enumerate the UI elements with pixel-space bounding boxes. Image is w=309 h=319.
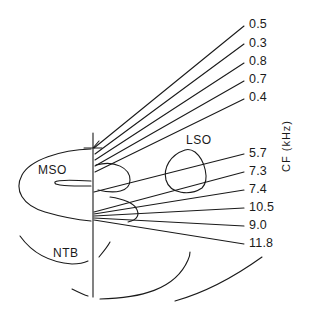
fiber-line-0.3 bbox=[95, 44, 244, 154]
cf-label-10.5: 10.5 bbox=[249, 201, 274, 213]
cf-label-0.5: 0.5 bbox=[249, 18, 267, 30]
structure-curve-4 bbox=[175, 257, 262, 301]
structure-curve-1 bbox=[99, 242, 110, 257]
cf-label-9.0: 9.0 bbox=[249, 219, 267, 231]
cf-label-7.3: 7.3 bbox=[249, 165, 267, 177]
fiber-line-10.5 bbox=[94, 208, 244, 216]
cf-label-0.7: 0.7 bbox=[249, 73, 267, 85]
fiber-line-0.5 bbox=[94, 26, 244, 148]
fiber-line-7.4 bbox=[94, 190, 244, 214]
lso-outline bbox=[165, 150, 206, 193]
fiber-line-0.7 bbox=[95, 81, 244, 166]
cf-label-5.7: 5.7 bbox=[249, 147, 267, 159]
mso-outline bbox=[19, 149, 91, 221]
fiber-line-0.8 bbox=[95, 63, 244, 160]
fiber-line-9.0 bbox=[94, 218, 244, 226]
lso-label: LSO bbox=[186, 133, 212, 147]
cf-label-11.8: 11.8 bbox=[249, 237, 273, 249]
structure-curve-2 bbox=[72, 289, 88, 296]
ntb-label: NTB bbox=[53, 246, 79, 260]
cf-axis-label: CF (kHz) bbox=[280, 120, 292, 172]
cf-label-0.3: 0.3 bbox=[249, 37, 267, 49]
mso-label: MSO bbox=[38, 163, 67, 177]
structure-curve-3 bbox=[100, 252, 190, 299]
cf-label-0.8: 0.8 bbox=[249, 55, 267, 67]
fiber-line-11.8 bbox=[94, 220, 244, 244]
cf-label-0.4: 0.4 bbox=[249, 91, 267, 103]
cf-label-7.4: 7.4 bbox=[249, 183, 267, 195]
mso-inner bbox=[55, 180, 91, 186]
